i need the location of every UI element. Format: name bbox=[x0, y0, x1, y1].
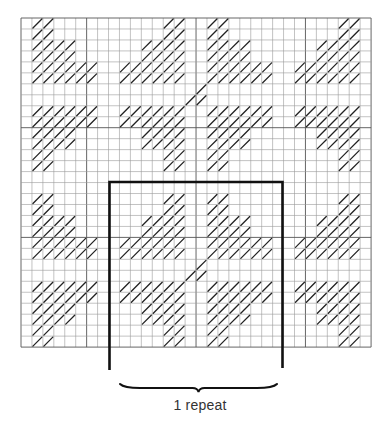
hatch-stitch bbox=[66, 140, 75, 149]
hatch-stitch bbox=[142, 227, 151, 236]
hatch-stitch bbox=[44, 337, 53, 346]
hatch-stitch bbox=[44, 41, 53, 50]
hatch-stitch bbox=[131, 63, 140, 72]
hatch-stitch bbox=[33, 162, 42, 171]
hatch-stitch bbox=[241, 293, 250, 302]
hatch-stitch bbox=[350, 63, 359, 72]
hatch-stitch bbox=[33, 118, 42, 127]
hatch-stitch bbox=[317, 63, 326, 72]
hatch-stitch bbox=[55, 304, 64, 313]
hatch-stitch bbox=[317, 282, 326, 291]
hatch-stitch bbox=[241, 63, 250, 72]
hatch-stitch bbox=[164, 151, 173, 160]
hatch-stitch bbox=[175, 227, 184, 236]
hatch-stitch bbox=[350, 151, 359, 160]
hatch-stitch bbox=[175, 249, 184, 258]
hatch-stitch bbox=[328, 107, 337, 116]
hatch-stitch bbox=[350, 19, 359, 28]
hatch-stitch bbox=[175, 238, 184, 247]
hatch-stitch bbox=[88, 107, 97, 116]
hatch-stitch bbox=[120, 282, 129, 291]
hatch-stitch bbox=[219, 249, 228, 258]
hatch-stitch bbox=[164, 140, 173, 149]
hatch-stitch bbox=[44, 282, 53, 291]
hatch-stitch bbox=[306, 118, 315, 127]
hatch-stitch bbox=[175, 205, 184, 214]
hatch-stitch bbox=[241, 129, 250, 138]
hatch-stitch bbox=[55, 227, 64, 236]
hatch-stitch bbox=[350, 162, 359, 171]
hatch-stitch bbox=[317, 293, 326, 302]
hatch-stitch bbox=[88, 282, 97, 291]
hatch-stitch bbox=[33, 315, 42, 324]
hatch-stitch bbox=[44, 19, 53, 28]
hatch-stitch bbox=[252, 107, 261, 116]
hatch-stitch bbox=[186, 96, 195, 105]
hatch-stitch bbox=[241, 227, 250, 236]
hatch-stitch bbox=[164, 249, 173, 258]
hatch-stitch bbox=[44, 151, 53, 160]
hatch-stitch bbox=[208, 293, 217, 302]
hatch-stitch bbox=[252, 238, 261, 247]
hatch-stitch bbox=[175, 19, 184, 28]
hatch-stitch bbox=[153, 293, 162, 302]
hatch-stitch bbox=[175, 140, 184, 149]
hatch-stitch bbox=[339, 107, 348, 116]
hatch-stitch bbox=[208, 41, 217, 50]
hatch-stitch bbox=[66, 282, 75, 291]
hatch-stitch bbox=[153, 249, 162, 258]
hatch-stitch bbox=[131, 107, 140, 116]
hatch-stitch bbox=[306, 63, 315, 72]
hatch-stitch bbox=[339, 249, 348, 258]
hatch-stitch bbox=[142, 238, 151, 247]
hatch-stitch bbox=[33, 195, 42, 204]
hatch-stitch bbox=[44, 304, 53, 313]
hatch-stitch bbox=[230, 63, 239, 72]
hatch-stitch bbox=[317, 41, 326, 50]
hatch-stitch bbox=[120, 238, 129, 247]
hatch-stitch bbox=[66, 293, 75, 302]
hatch-stitch bbox=[164, 293, 173, 302]
hatch-stitch bbox=[317, 304, 326, 313]
hatch-stitch bbox=[219, 118, 228, 127]
hatch-stitch bbox=[164, 74, 173, 83]
hatch-stitch bbox=[317, 118, 326, 127]
hatch-stitch bbox=[120, 249, 129, 258]
hatch-stitch bbox=[33, 140, 42, 149]
hatch-stitch bbox=[55, 238, 64, 247]
hatch-stitch bbox=[208, 249, 217, 258]
hatch-stitch bbox=[175, 129, 184, 138]
hatch-stitch bbox=[66, 249, 75, 258]
hatch-stitch bbox=[208, 52, 217, 61]
hatch-stitch bbox=[252, 118, 261, 127]
hatch-stitch bbox=[197, 85, 206, 94]
hatch-stitch bbox=[241, 282, 250, 291]
hatch-stitch bbox=[120, 74, 129, 83]
hatch-stitch bbox=[328, 63, 337, 72]
hatch-stitch bbox=[252, 293, 261, 302]
hatch-stitch bbox=[33, 52, 42, 61]
hatch-stitch bbox=[77, 118, 86, 127]
hatch-stitch bbox=[55, 129, 64, 138]
hatch-stitch bbox=[219, 140, 228, 149]
hatch-stitch bbox=[219, 74, 228, 83]
hatch-stitch bbox=[44, 118, 53, 127]
hatch-stitch bbox=[164, 41, 173, 50]
hatch-stitch bbox=[66, 63, 75, 72]
hatch-stitch bbox=[339, 74, 348, 83]
hatch-stitch bbox=[208, 140, 217, 149]
hatch-stitch bbox=[317, 107, 326, 116]
hatch-stitch bbox=[66, 52, 75, 61]
hatch-stitch bbox=[328, 227, 337, 236]
hatch-stitch bbox=[33, 151, 42, 160]
hatch-stitch bbox=[350, 41, 359, 50]
hatch-stitch bbox=[44, 140, 53, 149]
hatch-stitch bbox=[66, 129, 75, 138]
hatch-stitch bbox=[339, 216, 348, 225]
hatch-stitch bbox=[120, 118, 129, 127]
hatch-stitch bbox=[350, 129, 359, 138]
hatch-stitch bbox=[350, 326, 359, 335]
hatch-stitch bbox=[142, 118, 151, 127]
hatch-stitch bbox=[296, 118, 305, 127]
hatch-stitch bbox=[350, 227, 359, 236]
